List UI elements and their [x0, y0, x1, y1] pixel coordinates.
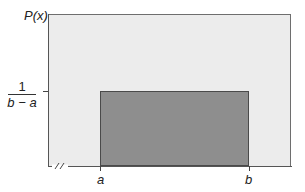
fraction-denominator: b − a	[6, 96, 38, 109]
x-tick-b	[249, 166, 250, 171]
y-tick	[43, 91, 48, 92]
y-axis	[48, 14, 49, 167]
x-tick-label-a: a	[97, 172, 104, 187]
axis-break-icon	[52, 161, 68, 171]
x-tick-a	[100, 166, 101, 171]
x-tick-label-b: b	[245, 172, 252, 187]
x-axis	[48, 166, 292, 167]
y-axis-label: P(x)	[24, 8, 48, 23]
y-tick-label-fraction: 1 b − a	[6, 80, 38, 109]
uniform-distribution-region	[100, 91, 249, 166]
fraction-numerator: 1	[6, 80, 38, 93]
